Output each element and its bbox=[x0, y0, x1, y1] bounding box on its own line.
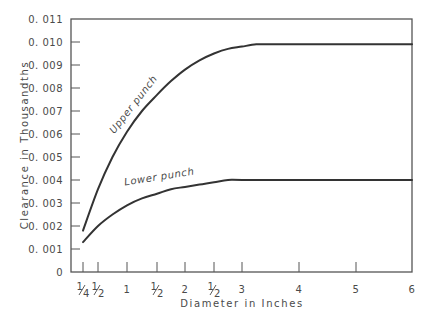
curve-labels: Upper punchLower punch bbox=[107, 73, 195, 188]
y-tick-label: 0. 006 bbox=[28, 129, 63, 140]
chart: 00. 0010. 0020. 0030. 0040. 0050. 0060. … bbox=[0, 0, 428, 325]
fraction-denominator: 4 bbox=[83, 288, 90, 299]
lower-punch-curve bbox=[83, 180, 412, 242]
upper-punch-label: Upper punch bbox=[107, 73, 159, 136]
y-tick-label: 0. 003 bbox=[28, 198, 63, 209]
y-tick-label: 0. 002 bbox=[28, 221, 63, 232]
fraction-denominator: 2 bbox=[98, 288, 105, 299]
y-tick-label: 0. 008 bbox=[28, 83, 63, 94]
x-tick-label: 5 bbox=[353, 284, 360, 295]
y-tick-label: 0. 004 bbox=[28, 175, 63, 186]
y-tick-label: 0. 007 bbox=[28, 106, 63, 117]
fraction-denominator: 2 bbox=[157, 288, 164, 299]
y-tick-label: 0. 001 bbox=[28, 244, 63, 255]
x-axis-label: Diameter in Inches bbox=[180, 298, 303, 309]
y-axis-label: Clearance in Thousandths bbox=[19, 61, 30, 230]
x-axis-ticks: 14121122123456 bbox=[77, 262, 416, 299]
y-tick-label: 0. 010 bbox=[28, 37, 63, 48]
x-tick-label: 3 bbox=[239, 284, 246, 295]
x-tick-label: 4 bbox=[296, 284, 303, 295]
plot-border bbox=[71, 19, 412, 272]
y-axis-ticks: 00. 0010. 0020. 0030. 0040. 0050. 0060. … bbox=[28, 14, 80, 278]
y-tick-label: 0. 009 bbox=[28, 60, 63, 71]
x-tick-label-fraction: 12 bbox=[208, 281, 221, 299]
x-tick-label-fraction: 12 bbox=[151, 281, 164, 299]
x-tick-label: 2 bbox=[182, 284, 189, 295]
x-tick-label: 6 bbox=[409, 284, 416, 295]
x-tick-label-fraction: 14 bbox=[77, 281, 90, 299]
lower-punch-label: Lower punch bbox=[123, 166, 195, 188]
x-tick-label: 1 bbox=[124, 284, 131, 295]
x-tick-label-fraction: 12 bbox=[92, 281, 105, 299]
curves bbox=[83, 44, 412, 242]
y-tick-label: 0 bbox=[56, 267, 63, 278]
plot-frame bbox=[71, 19, 412, 272]
y-tick-label: 0. 005 bbox=[28, 152, 63, 163]
y-tick-label: 0. 011 bbox=[28, 14, 63, 25]
